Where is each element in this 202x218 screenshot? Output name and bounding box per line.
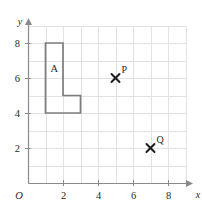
y-axis-arrowhead (25, 18, 32, 25)
point-label-p: P (122, 64, 128, 75)
y-tick-label: 4 (15, 108, 21, 119)
coordinate-grid-figure: O x y 24682468APQ (0, 0, 202, 218)
origin-label: O (15, 190, 23, 201)
x-tick-label: 6 (131, 190, 136, 201)
tick-marks (25, 44, 169, 187)
shape-label-a: A (50, 63, 58, 74)
x-tick-label: 2 (61, 190, 66, 201)
coordinate-plane-svg: O x y 24682468APQ (0, 0, 202, 218)
x-tick-label: 8 (166, 190, 171, 201)
y-tick-label: 6 (15, 73, 20, 84)
point-label-q: Q (157, 134, 165, 145)
y-axis-label: y (17, 16, 23, 27)
y-tick-label: 8 (15, 38, 20, 49)
x-tick-label: 4 (96, 190, 102, 201)
grid-lines (28, 26, 186, 184)
x-axis-arrowhead (186, 180, 193, 187)
y-tick-label: 2 (15, 143, 20, 154)
x-axis-label: x (195, 189, 201, 200)
